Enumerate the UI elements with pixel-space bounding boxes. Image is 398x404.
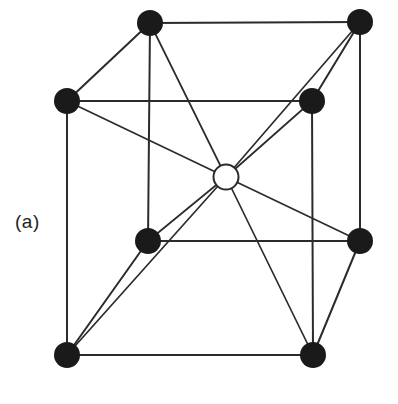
corner-atom-back-bottom-left bbox=[135, 228, 161, 254]
corner-atom-front-top-left bbox=[54, 88, 80, 114]
corner-atom-back-top-left bbox=[137, 10, 163, 36]
cube-edge-back-bottom-right-to-front-bottom-right bbox=[313, 241, 360, 355]
body-diagonal-back-top-right bbox=[226, 22, 360, 177]
body-diagonal-back-bottom-left bbox=[148, 177, 226, 241]
cube-edge-back-top-left-to-front-top-left bbox=[67, 23, 150, 101]
panel-label: (a) bbox=[15, 212, 40, 231]
corner-atom-back-top-right bbox=[347, 9, 373, 35]
cube-edge-back-top-left-to-back-bottom-left bbox=[148, 23, 150, 241]
body-diagonal-front-top-left bbox=[67, 101, 226, 177]
corner-atom-front-top-right bbox=[299, 88, 325, 114]
body-diagonal-front-bottom-left bbox=[67, 177, 226, 355]
body-diagonals-group bbox=[67, 22, 360, 355]
center-atom bbox=[214, 165, 239, 190]
corner-atom-front-bottom-right bbox=[300, 342, 326, 368]
body-diagonal-back-bottom-right bbox=[226, 177, 360, 241]
body-diagonal-front-bottom-right bbox=[226, 177, 313, 355]
cube-edge-front-top-right-to-front-bottom-right bbox=[312, 101, 313, 355]
corner-atom-back-bottom-right bbox=[347, 228, 373, 254]
corner-atom-front-bottom-left bbox=[54, 342, 80, 368]
bcc-unit-cell-diagram bbox=[0, 0, 398, 404]
body-diagonal-front-top-right bbox=[226, 101, 312, 177]
cube-edge-back-bottom-left-to-front-bottom-left bbox=[67, 241, 148, 355]
figure-container: (a) bbox=[0, 0, 398, 404]
cube-edge-back-top-left-to-back-top-right bbox=[150, 22, 360, 23]
cube-edge-back-top-right-to-front-top-right bbox=[312, 22, 360, 101]
